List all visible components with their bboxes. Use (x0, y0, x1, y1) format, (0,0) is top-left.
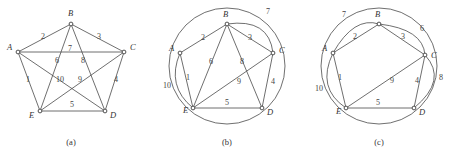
edge-label-8: 8 (81, 56, 85, 65)
vertex-label-e: E (182, 105, 189, 115)
vertex-label-d: D (109, 110, 117, 120)
edge-label-5: 5 (225, 98, 229, 107)
vertex-c-node (271, 51, 275, 55)
edge-9-line (193, 53, 273, 108)
edge-6-line (193, 24, 227, 108)
edge-label-9: 9 (390, 76, 394, 85)
edge-label-1: 1 (338, 73, 342, 82)
panel-a-pentagram-drawing: B A C E D 2 3 1 4 5 6 7 8 9 10 (a) (0, 0, 152, 156)
edge-label-2: 2 (201, 33, 205, 42)
vertex-label-d: D (266, 107, 274, 117)
vertex-a-node (331, 51, 335, 55)
edge-label-6: 6 (420, 24, 424, 33)
vertex-label-c: C (130, 42, 136, 52)
edge-label-7: 7 (342, 10, 346, 19)
edge-label-2: 2 (41, 32, 45, 41)
edge-label-6: 6 (55, 56, 59, 65)
edge-label-2: 2 (353, 32, 357, 41)
vertex-e-node (344, 106, 348, 110)
edge-label-10: 10 (163, 81, 171, 90)
edge-label-4: 4 (114, 75, 118, 84)
edge-8-line (227, 24, 262, 108)
vertex-b-node (69, 22, 73, 26)
caption-b: (b) (222, 137, 232, 147)
edge-label-7: 7 (68, 44, 72, 53)
figure-three-graph-drawings: B A C E D 2 3 1 4 5 6 7 8 9 10 (a) (0, 0, 457, 156)
vertex-e-node (191, 106, 195, 110)
panel-b-circle-drawing: B A C E D 2 3 7 1 10 6 8 9 4 5 (b) (152, 0, 302, 156)
vertex-b-node (377, 22, 381, 26)
caption-a: (a) (66, 137, 76, 147)
edge-label-3: 3 (97, 32, 101, 41)
vertex-a-node (178, 51, 182, 55)
vertex-label-e: E (28, 110, 35, 120)
edge-9-line (346, 55, 425, 108)
vertex-d-node (103, 109, 107, 113)
vertex-c-node (423, 53, 427, 57)
edge-label-8: 8 (439, 73, 443, 82)
edge-label-4: 4 (271, 77, 275, 86)
edge-label-5: 5 (70, 100, 74, 109)
edge-label-10: 10 (56, 75, 64, 84)
caption-c: (c) (374, 137, 384, 147)
vertex-a-node (16, 50, 20, 54)
edge-label-5: 5 (376, 98, 380, 107)
edge-label-9: 9 (78, 75, 82, 84)
edge-10-arc (327, 53, 346, 108)
vertex-b-node (225, 22, 229, 26)
vertex-label-c: C (431, 50, 437, 60)
vertex-label-b: B (68, 8, 73, 18)
vertex-label-b: B (223, 9, 228, 19)
edge-label-8: 8 (240, 57, 244, 66)
vertex-c-node (122, 50, 126, 54)
edge-label-3: 3 (401, 32, 405, 41)
edge-label-4: 4 (415, 76, 419, 85)
vertex-label-e: E (335, 106, 342, 116)
edge-label-9: 9 (237, 77, 241, 86)
vertex-label-d: D (418, 107, 426, 117)
vertex-label-c: C (279, 45, 285, 55)
edge-label-1: 1 (26, 75, 30, 84)
vertex-label-a: A (168, 43, 175, 53)
edge-10-arc (175, 53, 193, 108)
panel-c-circle-drawing: B A C E D 2 3 7 1 10 9 4 8 5 6 (c) (302, 0, 457, 156)
vertex-label-b: B (375, 9, 380, 19)
edge-label-10: 10 (315, 84, 323, 93)
vertex-label-a: A (6, 42, 13, 52)
edge-label-6: 6 (209, 57, 213, 66)
vertex-label-a: A (321, 43, 328, 53)
vertex-d-node (412, 106, 416, 110)
edge-label-1: 1 (186, 73, 190, 82)
edge-label-3: 3 (248, 33, 252, 42)
edge-label-7: 7 (266, 7, 270, 16)
vertex-e-node (38, 109, 42, 113)
vertex-d-node (260, 106, 264, 110)
